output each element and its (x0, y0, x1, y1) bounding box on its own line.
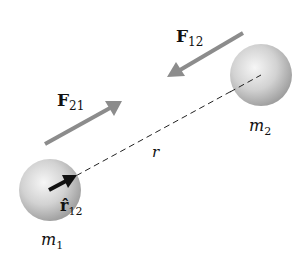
mass-m1-label: m1 (41, 230, 63, 252)
diagram-canvas: F12 F21 r m2 m1 r̂12 (0, 0, 306, 259)
force-f12-label: F12 (176, 26, 203, 49)
force-f21-label: F21 (57, 90, 84, 113)
separation-label: r (152, 143, 160, 161)
mass-m2-label: m2 (249, 116, 271, 138)
separation-line (50, 75, 261, 190)
